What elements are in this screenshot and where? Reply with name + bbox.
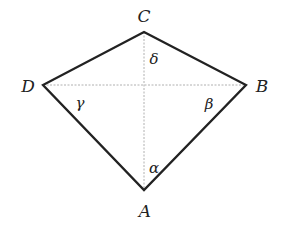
angle-label-beta: β [204,95,214,113]
angle-label-delta: δ [149,50,158,68]
vertex-label-b: B [255,76,269,96]
angle-label-alpha: α [149,159,159,177]
angle-label-gamma: γ [76,94,85,112]
kite-diagram: C D B A δ γ β α [0,0,284,228]
vertex-label-c: C [137,6,150,26]
vertex-label-a: A [137,201,151,221]
vertex-label-d: D [20,76,35,96]
